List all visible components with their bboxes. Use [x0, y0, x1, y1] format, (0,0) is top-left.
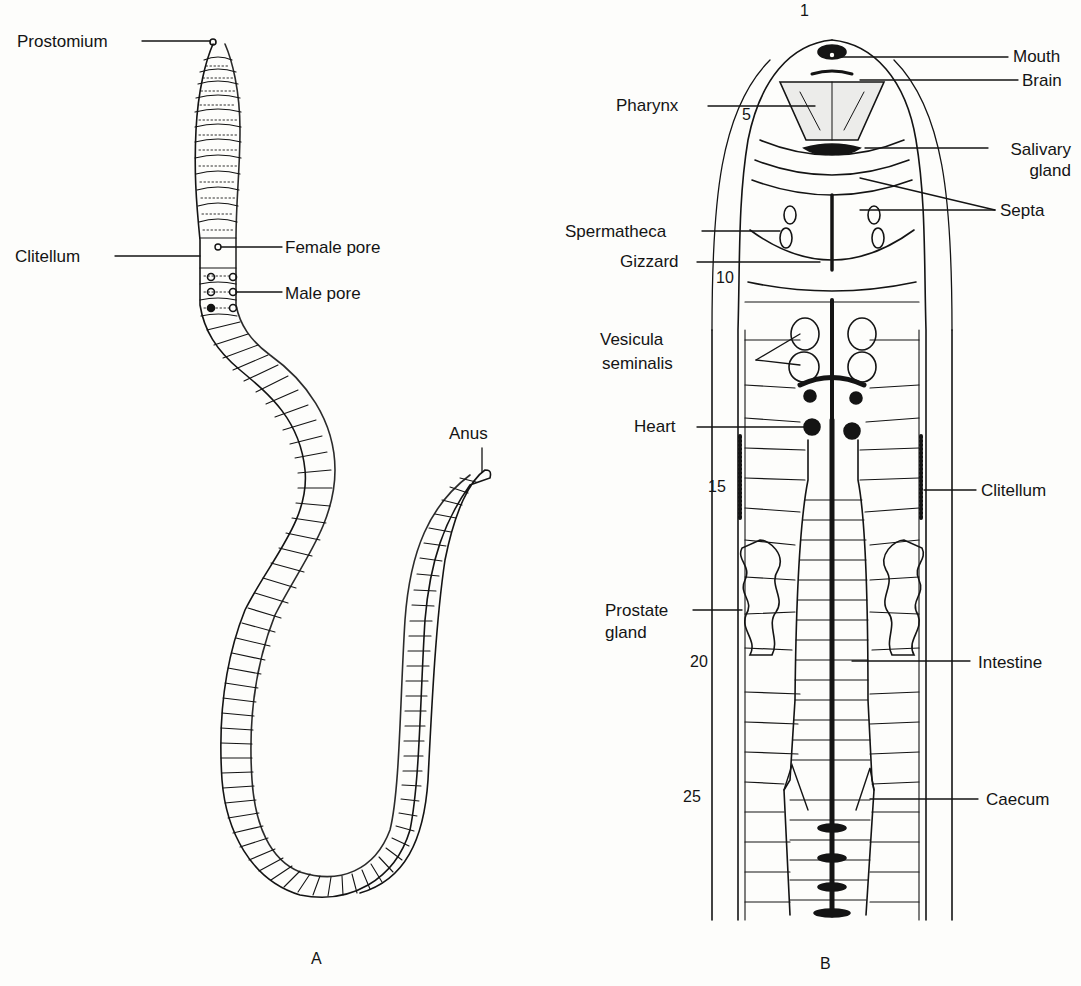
label-mouth: Mouth [1013, 47, 1060, 66]
label-gizzard: Gizzard [620, 252, 679, 271]
label-intestine: Intestine [978, 653, 1042, 672]
label-prostate-line2: gland [605, 623, 647, 642]
label-male-pore: Male pore [285, 284, 361, 303]
label-brain: Brain [1022, 71, 1062, 90]
segment-number-5: 5 [742, 106, 751, 124]
label-salivary-gland-line1: Salivary [985, 140, 1071, 159]
label-female-pore: Female pore [285, 238, 380, 257]
label-vesicula-line2: seminalis [602, 354, 673, 373]
segment-number-20: 20 [690, 653, 708, 671]
label-pharynx: Pharynx [616, 96, 678, 115]
label-salivary-gland-line2: gland [985, 161, 1071, 180]
label-septa: Septa [1000, 201, 1044, 220]
segment-number-10: 10 [716, 269, 734, 287]
worm-dissection-view [693, 40, 1018, 920]
caption-b: B [820, 955, 831, 973]
label-caecum: Caecum [986, 790, 1049, 809]
label-heart: Heart [634, 417, 676, 436]
earthworm-anatomy-illustration [0, 0, 1081, 986]
worm-external-view [115, 39, 491, 897]
caption-a: A [311, 950, 322, 968]
label-vesicula-line1: Vesicula [600, 330, 663, 349]
label-prostomium: Prostomium [17, 32, 108, 51]
label-spermatheca: Spermatheca [565, 222, 666, 241]
label-clitellum-a: Clitellum [15, 247, 80, 266]
segment-number-25: 25 [683, 788, 701, 806]
label-prostate-line1: Prostate [605, 601, 668, 620]
segment-number-15: 15 [708, 478, 726, 496]
label-anus: Anus [449, 424, 488, 443]
label-clitellum-b: Clitellum [981, 481, 1046, 500]
segment-number-1: 1 [800, 2, 809, 20]
